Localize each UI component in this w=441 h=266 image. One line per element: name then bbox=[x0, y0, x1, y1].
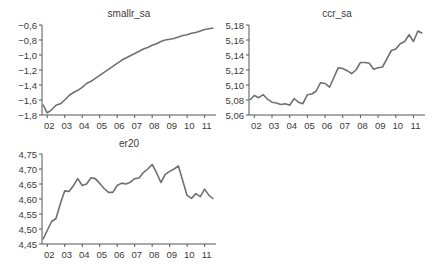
x-tick-label: 07 bbox=[131, 249, 142, 260]
x-tick-label: 02 bbox=[44, 249, 55, 260]
x-tick-label: 02 bbox=[251, 120, 262, 131]
panel-ccr-sa: ccr_sa5,185,165,145,125,105,085,06020304… bbox=[226, 8, 426, 131]
y-tick-label: 4,45 bbox=[19, 239, 38, 250]
x-tick-label: 05 bbox=[96, 120, 107, 131]
y-tick-label: 4,65 bbox=[19, 179, 38, 190]
panel-smallr-sa: smallr_sa−0,6−0,8−1,0−1,2−1,4−1,6−1,8020… bbox=[18, 8, 216, 131]
x-tick-label: 10 bbox=[184, 249, 195, 260]
y-tick-label: 5,14 bbox=[226, 50, 245, 61]
y-tick-label: −1,6 bbox=[18, 95, 37, 106]
y-tick-label: 4,75 bbox=[19, 149, 38, 160]
axes bbox=[42, 25, 216, 115]
x-tick-label: 11 bbox=[202, 249, 212, 260]
y-tick-label: 5,10 bbox=[226, 80, 245, 91]
x-tick-label: 10 bbox=[393, 120, 404, 131]
x-tick-label: 10 bbox=[184, 120, 195, 131]
chart-title: ccr_sa bbox=[322, 8, 352, 19]
y-tick-label: −1,8 bbox=[18, 110, 37, 121]
data-line bbox=[43, 28, 214, 113]
x-tick-label: 05 bbox=[304, 120, 315, 131]
x-tick-label: 08 bbox=[149, 249, 160, 260]
axes bbox=[42, 154, 216, 244]
x-tick-label: 03 bbox=[61, 120, 72, 131]
y-tick-label: −0,6 bbox=[18, 20, 37, 31]
x-tick-label: 09 bbox=[166, 120, 177, 131]
y-tick-label: −1,4 bbox=[18, 80, 37, 91]
x-tick-label: 03 bbox=[269, 120, 280, 131]
y-tick-label: 5,12 bbox=[226, 65, 245, 76]
chart-title: er20 bbox=[119, 138, 139, 149]
x-tick-label: 08 bbox=[149, 120, 160, 131]
data-line bbox=[250, 31, 422, 105]
y-tick-label: 5,08 bbox=[226, 95, 245, 106]
chart-title: smallr_sa bbox=[108, 8, 151, 19]
x-tick-label: 02 bbox=[44, 120, 55, 131]
x-tick-label: 04 bbox=[79, 120, 90, 131]
y-tick-label: 5,18 bbox=[226, 20, 245, 31]
x-tick-label: 04 bbox=[286, 120, 297, 131]
y-tick-label: 4,60 bbox=[19, 194, 38, 205]
y-tick-label: 4,55 bbox=[19, 209, 38, 220]
x-tick-label: 03 bbox=[61, 249, 72, 260]
y-tick-label: −1,0 bbox=[18, 50, 37, 61]
x-tick-label: 07 bbox=[131, 120, 142, 131]
x-tick-label: 06 bbox=[114, 249, 125, 260]
y-tick-label: 4,70 bbox=[19, 164, 38, 175]
x-tick-label: 07 bbox=[340, 120, 351, 131]
y-tick-label: −1,2 bbox=[18, 65, 37, 76]
data-line bbox=[43, 165, 214, 240]
figure: smallr_sa−0,6−0,8−1,0−1,2−1,4−1,6−1,8020… bbox=[0, 0, 441, 266]
x-tick-label: 08 bbox=[357, 120, 368, 131]
y-tick-label: 5,06 bbox=[226, 110, 245, 121]
y-tick-label: 5,16 bbox=[226, 35, 245, 46]
x-tick-label: 11 bbox=[202, 120, 212, 131]
x-tick-label: 06 bbox=[114, 120, 125, 131]
panel-er20: er204,754,704,654,604,554,504,4502030405… bbox=[19, 138, 217, 260]
y-tick-label: 4,50 bbox=[19, 224, 38, 235]
x-tick-label: 09 bbox=[375, 120, 386, 131]
x-tick-label: 05 bbox=[96, 249, 107, 260]
x-tick-label: 06 bbox=[322, 120, 333, 131]
x-tick-label: 09 bbox=[166, 249, 177, 260]
x-tick-label: 11 bbox=[411, 120, 421, 131]
x-tick-label: 04 bbox=[79, 249, 90, 260]
y-tick-label: −0,8 bbox=[18, 35, 37, 46]
